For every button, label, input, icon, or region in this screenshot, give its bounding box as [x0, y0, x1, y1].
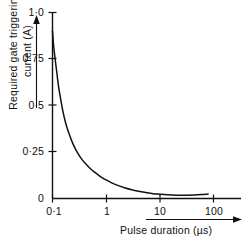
y-tick-label-0-25: 0·25 — [6, 145, 44, 157]
x-tick-label-0-1: 0·1 — [46, 205, 61, 217]
x-axis-title: Pulse duration (µs) — [120, 224, 212, 236]
x-tick-label-10: 10 — [154, 205, 166, 217]
x-tick-label-1: 1 — [104, 205, 110, 217]
data-series-curve — [53, 31, 209, 195]
y-axis-title: Required gate triggering current (A) — [3, 0, 37, 139]
y-axis-title-line-1: Required gate triggering — [6, 0, 20, 110]
y-tick-label-0: 0 — [6, 192, 44, 204]
y-axis-title-line-2: current (A) — [20, 25, 34, 77]
x-tick-label-100: 100 — [205, 205, 223, 217]
chart-figure: 1·0 0·75 0·5 0·25 0 0·1 1 10 100 Require… — [0, 0, 250, 242]
x-axis-arrow — [146, 216, 242, 223]
